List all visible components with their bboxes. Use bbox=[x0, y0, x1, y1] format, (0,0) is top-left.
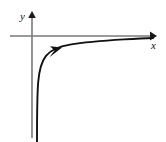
graph-figure: y x bbox=[0, 0, 166, 142]
curve-group bbox=[37, 38, 153, 142]
y-axis-arrowhead bbox=[28, 11, 36, 18]
y-axis-label: y bbox=[20, 11, 25, 22]
function-curve bbox=[37, 38, 153, 142]
axes-group bbox=[10, 11, 157, 138]
x-axis-label: x bbox=[151, 40, 156, 51]
